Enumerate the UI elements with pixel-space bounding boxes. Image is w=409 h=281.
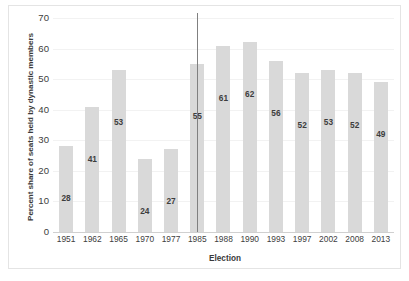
bar-value-label: 28 [61, 194, 70, 203]
bar-slot: 52 [342, 18, 368, 232]
bar[interactable] [321, 70, 335, 232]
bar-value-label: 56 [271, 109, 280, 118]
bar[interactable] [374, 82, 388, 232]
x-tick-2002: 2002 [319, 234, 338, 245]
x-tick-1990: 1990 [240, 234, 259, 245]
y-axis-tick-labels: 010203040506070 [21, 18, 49, 232]
reference-line-1985 [197, 13, 198, 232]
x-tick-2008: 2008 [345, 234, 364, 245]
x-axis-tick-labels: 1951196219651970197719851988199019931997… [53, 234, 394, 246]
bar-value-label: 52 [350, 121, 359, 130]
x-tick-1993: 1993 [267, 234, 286, 245]
x-tick-1988: 1988 [214, 234, 233, 245]
bar-value-label: 52 [298, 121, 307, 130]
bar-slot: 49 [368, 18, 394, 232]
bar-value-label: 61 [219, 94, 228, 103]
bar-slot: 27 [158, 18, 184, 232]
y-tick-30: 30 [25, 135, 49, 145]
y-tick-0: 0 [25, 227, 49, 237]
gridline-0 [53, 232, 394, 233]
bar-slot: 53 [105, 18, 131, 232]
bar[interactable] [85, 107, 99, 232]
x-tick-1985: 1985 [188, 234, 207, 245]
y-tick-60: 60 [25, 44, 49, 54]
x-tick-1965: 1965 [109, 234, 128, 245]
bar-value-label: 53 [114, 118, 123, 127]
bar-slot: 61 [210, 18, 236, 232]
bar-slot: 41 [79, 18, 105, 232]
bar-value-label: 62 [245, 90, 254, 99]
y-tick-20: 20 [25, 166, 49, 176]
x-tick-1997: 1997 [293, 234, 312, 245]
bar-value-label: 49 [376, 130, 385, 139]
x-tick-2013: 2013 [372, 234, 391, 245]
x-axis-title: Election [55, 253, 395, 264]
bar-slot: 24 [132, 18, 158, 232]
bars-series: 28415324275561625652535249 [53, 18, 394, 232]
bar-slot: 56 [263, 18, 289, 232]
y-tick-40: 40 [25, 105, 49, 115]
bar[interactable] [269, 61, 283, 232]
chart-container: Percent share of seats held by dynastic … [0, 0, 409, 281]
bar[interactable] [295, 73, 309, 232]
y-tick-50: 50 [25, 74, 49, 84]
bar-slot: 28 [53, 18, 79, 232]
y-tick-10: 10 [25, 196, 49, 206]
bar-value-label: 27 [166, 197, 175, 206]
bar[interactable] [138, 159, 152, 232]
bar[interactable] [59, 146, 73, 232]
bar-slot: 62 [237, 18, 263, 232]
bar[interactable] [243, 42, 257, 232]
bar[interactable] [112, 70, 126, 232]
bar-slot: 52 [289, 18, 315, 232]
bar[interactable] [348, 73, 362, 232]
bar[interactable] [164, 149, 178, 232]
bar-value-label: 53 [324, 118, 333, 127]
bar-value-label: 24 [140, 207, 149, 216]
bar-slot: 53 [315, 18, 341, 232]
plot-area: 28415324275561625652535249 [53, 18, 394, 232]
x-tick-1962: 1962 [83, 234, 102, 245]
bar-value-label: 41 [88, 155, 97, 164]
x-tick-1951: 1951 [57, 234, 76, 245]
x-tick-1977: 1977 [162, 234, 181, 245]
x-tick-1970: 1970 [135, 234, 154, 245]
y-tick-70: 70 [25, 13, 49, 23]
bar[interactable] [216, 46, 230, 232]
